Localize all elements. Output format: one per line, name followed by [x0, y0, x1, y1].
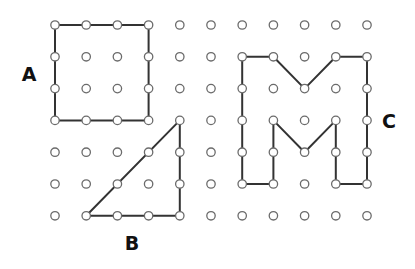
grid-dot: [207, 21, 215, 29]
grid-dot: [332, 116, 340, 124]
grid-dot: [363, 212, 371, 220]
grid-dot: [113, 180, 121, 188]
grid-dot: [51, 84, 59, 92]
grid-dot: [82, 116, 90, 124]
grid-dot: [238, 84, 246, 92]
grid-dot: [238, 148, 246, 156]
grid-dot: [207, 148, 215, 156]
grid-dot: [300, 84, 308, 92]
grid-dot: [176, 84, 184, 92]
grid-dot: [144, 116, 152, 124]
grid-dot: [332, 212, 340, 220]
grid-dot: [300, 212, 308, 220]
shape-square: [55, 25, 149, 120]
grid-dot: [144, 180, 152, 188]
grid-dot: [144, 53, 152, 61]
grid-dot: [144, 21, 152, 29]
shape-label-a: A: [22, 65, 37, 84]
grid-dot: [82, 212, 90, 220]
grid-dot: [269, 148, 277, 156]
grid-dot: [207, 53, 215, 61]
grid-dot: [207, 84, 215, 92]
grid-dot: [51, 21, 59, 29]
grid-dot: [113, 116, 121, 124]
grid-dot: [51, 180, 59, 188]
grid-dot: [332, 148, 340, 156]
grid-dot: [207, 212, 215, 220]
grid-dot: [300, 116, 308, 124]
grid-dot: [363, 180, 371, 188]
grid-dot: [82, 148, 90, 156]
grid-dot: [207, 116, 215, 124]
grid-dot: [51, 148, 59, 156]
grid-dot: [238, 53, 246, 61]
grid-dot: [176, 148, 184, 156]
grid-dot: [176, 21, 184, 29]
grid-dot: [300, 148, 308, 156]
grid-dot: [51, 116, 59, 124]
grid-dot: [176, 180, 184, 188]
grid-dot: [363, 84, 371, 92]
grid-dot: [82, 21, 90, 29]
grid-dot: [238, 180, 246, 188]
grid-dot: [300, 180, 308, 188]
dot-grid-diagram: [0, 0, 415, 269]
grid-dot: [332, 21, 340, 29]
shape-right-triangle: [86, 120, 180, 215]
grid-dot: [176, 116, 184, 124]
grid-dot: [269, 116, 277, 124]
grid-dot: [269, 84, 277, 92]
grid-dot: [51, 53, 59, 61]
grid-dot: [332, 84, 340, 92]
grid-dot: [113, 21, 121, 29]
shape-label-c: C: [382, 112, 396, 131]
grid-dot: [82, 84, 90, 92]
grid-dot: [176, 212, 184, 220]
grid-dot: [238, 212, 246, 220]
grid-dot: [269, 21, 277, 29]
grid-dot: [113, 148, 121, 156]
grid-dot: [144, 84, 152, 92]
grid-dot: [363, 21, 371, 29]
grid-dot: [363, 53, 371, 61]
grid-dot: [332, 53, 340, 61]
grid-dot: [269, 212, 277, 220]
grid-dot: [113, 53, 121, 61]
grid-dot: [238, 116, 246, 124]
grid-dot: [82, 53, 90, 61]
grid-dot: [363, 116, 371, 124]
grid-dot: [207, 180, 215, 188]
grid-dot: [238, 21, 246, 29]
grid-dot: [363, 148, 371, 156]
grid-dot: [113, 84, 121, 92]
grid-dot: [332, 180, 340, 188]
grid-dot: [144, 212, 152, 220]
grid-dot: [82, 180, 90, 188]
grid-dot: [269, 180, 277, 188]
grid-dot: [269, 53, 277, 61]
grid-dot: [176, 53, 184, 61]
grid-dot: [300, 21, 308, 29]
grid-dot: [300, 53, 308, 61]
shape-label-b: B: [125, 234, 139, 253]
grid-dot: [144, 148, 152, 156]
grid-dot: [51, 212, 59, 220]
grid-dot: [113, 212, 121, 220]
